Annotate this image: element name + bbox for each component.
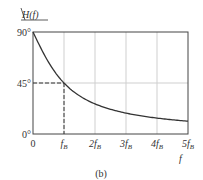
dashed-guides — [33, 83, 64, 134]
x-tick-label: 0 — [31, 138, 36, 149]
figure-caption: (b) — [95, 168, 107, 180]
x-tick-label: 5fB — [182, 138, 195, 151]
x-axis-label: f — [179, 153, 183, 164]
phase-response-chart: H(f) 0°45°90° 0fB2fB3fB4fB5fB f (b) — [0, 0, 203, 180]
phase-curve — [33, 32, 188, 121]
x-tick-label: 4fB — [151, 138, 164, 151]
x-tick-label: 3fB — [119, 138, 133, 151]
x-tick-labels: 0fB2fB3fB4fB5fB — [31, 138, 195, 151]
y-tick-labels: 0°45°90° — [17, 27, 31, 140]
x-tick-label: 2fB — [89, 138, 102, 151]
y-tick-label: 90° — [17, 27, 31, 38]
y-tick-label: 45° — [17, 78, 31, 89]
x-tick-label: fB — [60, 138, 68, 151]
